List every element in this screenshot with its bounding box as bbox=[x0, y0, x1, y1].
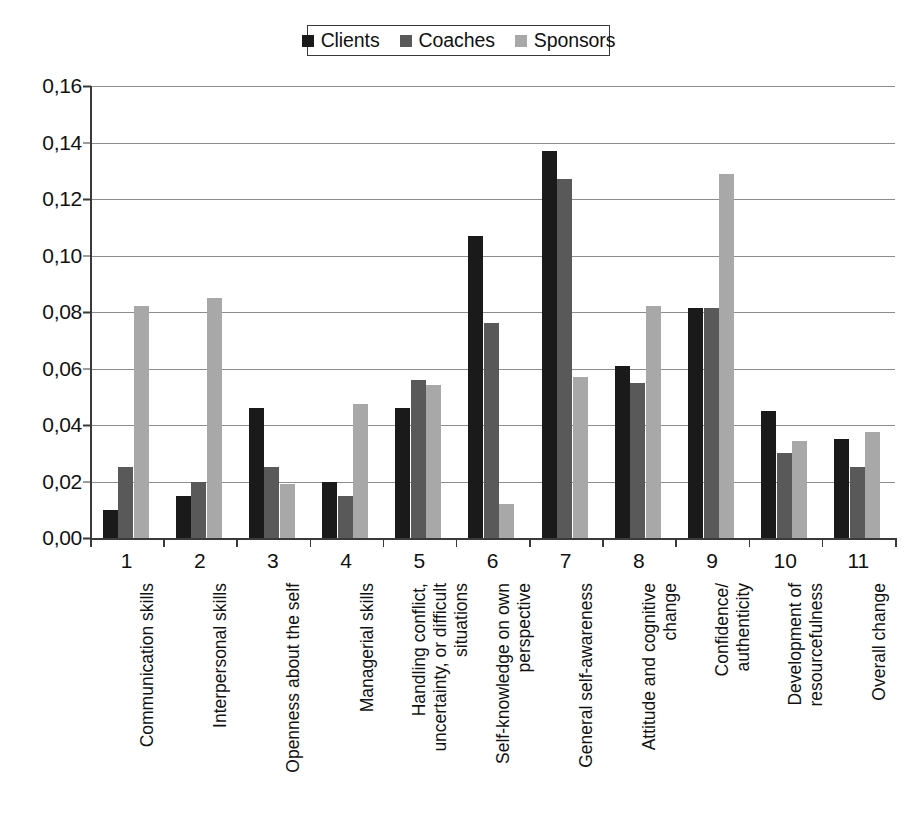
y-axis-tick-mark bbox=[83, 481, 91, 483]
x-axis-tick-mark bbox=[895, 538, 897, 547]
x-axis-number-label: 4 bbox=[340, 549, 352, 573]
bar-group bbox=[529, 86, 602, 538]
x-axis-category-label: Attitude and cognitivechange bbox=[639, 583, 681, 750]
bar bbox=[719, 174, 734, 538]
x-axis-number-label: 2 bbox=[194, 549, 206, 573]
bar bbox=[615, 366, 630, 538]
y-axis-tick-mark bbox=[83, 255, 91, 257]
bar bbox=[573, 377, 588, 538]
legend-label-coaches: Coaches bbox=[419, 31, 495, 51]
bar bbox=[280, 484, 295, 538]
bar-group bbox=[456, 86, 529, 538]
legend-label-sponsors: Sponsors bbox=[534, 31, 616, 51]
x-axis-tick-mark bbox=[749, 538, 751, 547]
x-axis-category-label: Development ofresourcefulness bbox=[785, 583, 827, 707]
legend-entry-coaches: Coaches bbox=[400, 31, 495, 51]
x-axis-tick-mark bbox=[383, 538, 385, 547]
bar bbox=[426, 385, 441, 538]
bar bbox=[134, 306, 149, 538]
bar-group bbox=[163, 86, 236, 538]
x-axis-category-label: Handling conflict,uncertainty, or diffic… bbox=[409, 583, 472, 752]
legend-swatch-sponsors bbox=[515, 35, 527, 47]
x-axis-category-label: Managerial skills bbox=[357, 583, 378, 712]
bar bbox=[761, 411, 776, 538]
bar bbox=[411, 380, 426, 538]
bar bbox=[395, 408, 410, 538]
y-axis-tick-label: 0,14 bbox=[42, 131, 82, 155]
x-axis-tick-mark bbox=[163, 538, 165, 547]
x-axis-number-label: 5 bbox=[413, 549, 425, 573]
x-axis-category-label: Self-knowledge on ownperspective bbox=[493, 583, 535, 764]
x-axis-number-label: 7 bbox=[560, 549, 572, 573]
x-axis-category-label: Communication skills bbox=[137, 583, 158, 747]
y-axis-tick-mark bbox=[83, 538, 91, 540]
bar bbox=[792, 441, 807, 538]
x-axis-number-label: 1 bbox=[121, 549, 133, 573]
y-axis-tick-mark bbox=[83, 312, 91, 314]
x-axis-line bbox=[90, 538, 896, 540]
x-axis-tick-mark bbox=[310, 538, 312, 547]
bar bbox=[191, 482, 206, 539]
x-axis-number-label: 3 bbox=[267, 549, 279, 573]
bar bbox=[468, 236, 483, 538]
y-axis-tick-label: 0,04 bbox=[42, 413, 82, 437]
x-axis-number-label: 10 bbox=[774, 549, 797, 573]
y-axis-tick-label: 0,08 bbox=[42, 300, 82, 324]
bar-series-container bbox=[90, 86, 895, 538]
x-axis-tick-mark bbox=[602, 538, 604, 547]
bar bbox=[850, 467, 865, 538]
y-axis-tick-mark bbox=[83, 368, 91, 370]
bar bbox=[557, 179, 572, 538]
bar bbox=[499, 504, 514, 538]
y-axis-tick-label: 0,12 bbox=[42, 187, 82, 211]
bar bbox=[646, 306, 661, 538]
x-axis-category-label: General self-awareness bbox=[576, 583, 597, 768]
bar-group bbox=[822, 86, 895, 538]
x-axis-category-label: Confidence/authenticity bbox=[712, 583, 754, 676]
y-axis-tick-label: 0,06 bbox=[42, 357, 82, 381]
bar bbox=[704, 308, 719, 538]
y-axis-tick-mark bbox=[83, 199, 91, 201]
bar bbox=[264, 467, 279, 538]
bar bbox=[484, 323, 499, 538]
bar bbox=[688, 308, 703, 538]
bar bbox=[118, 467, 133, 538]
bar-group bbox=[90, 86, 163, 538]
legend-entry-clients: Clients bbox=[302, 31, 380, 51]
y-axis-tick-label: 0,00 bbox=[42, 526, 82, 550]
bar bbox=[338, 496, 353, 538]
legend-label-clients: Clients bbox=[321, 31, 380, 51]
x-axis-category-label: Overall change bbox=[869, 583, 890, 701]
bar bbox=[322, 482, 337, 539]
bar-group bbox=[749, 86, 822, 538]
bar-group bbox=[310, 86, 383, 538]
bar bbox=[865, 432, 880, 538]
x-axis-tick-mark bbox=[236, 538, 238, 547]
bar-group bbox=[236, 86, 309, 538]
y-axis-tick-mark bbox=[83, 86, 91, 88]
x-axis-category-label: Openness about the self bbox=[283, 583, 304, 773]
y-axis-tick-mark bbox=[83, 425, 91, 427]
bar bbox=[630, 383, 645, 538]
x-axis-tick-mark bbox=[822, 538, 824, 547]
x-axis-tick-mark bbox=[456, 538, 458, 547]
legend-swatch-clients bbox=[302, 35, 314, 47]
chart-legend: Clients Coaches Sponsors bbox=[307, 25, 610, 56]
bar bbox=[353, 404, 368, 538]
x-axis-number-label: 8 bbox=[633, 549, 645, 573]
x-axis-category-label: Interpersonal skills bbox=[210, 583, 231, 728]
bar bbox=[834, 439, 849, 538]
bar bbox=[542, 151, 557, 538]
x-axis-number-label: 6 bbox=[487, 549, 499, 573]
y-axis-tick-label: 0,02 bbox=[42, 470, 82, 494]
x-axis-tick-mark bbox=[529, 538, 531, 547]
bar-group bbox=[602, 86, 675, 538]
bar-group bbox=[675, 86, 748, 538]
bar bbox=[103, 510, 118, 538]
y-axis-tick-labels: 0,160,140,120,100,080,060,040,020,00 bbox=[0, 0, 82, 833]
x-axis-tick-mark bbox=[90, 538, 92, 547]
bar bbox=[249, 408, 264, 538]
legend-swatch-coaches bbox=[400, 35, 412, 47]
y-axis-tick-label: 0,10 bbox=[42, 244, 82, 268]
bar bbox=[777, 453, 792, 538]
